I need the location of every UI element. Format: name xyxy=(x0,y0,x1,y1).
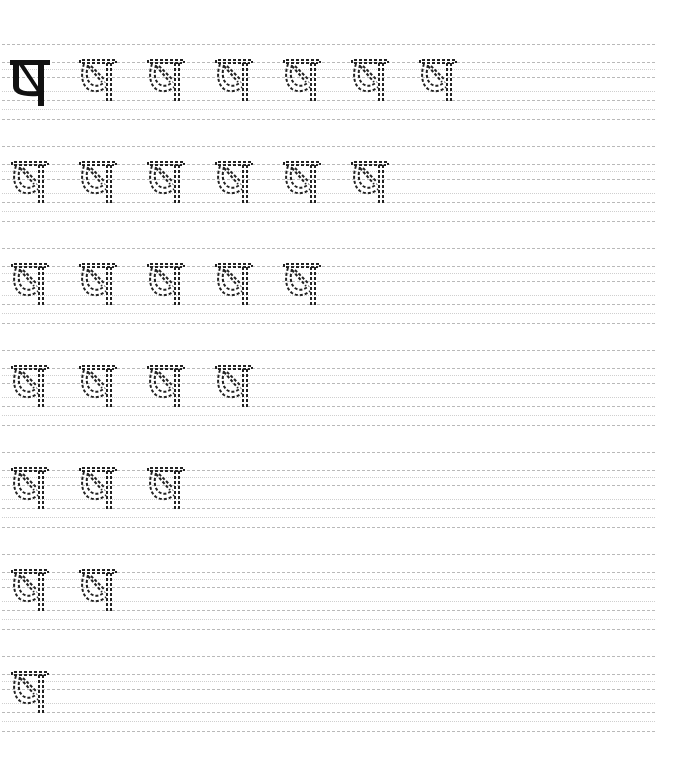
guide-line xyxy=(2,629,655,630)
guide-line xyxy=(2,703,655,704)
guide-line xyxy=(2,452,655,453)
guide-line xyxy=(2,712,655,713)
practice-row-5 xyxy=(2,452,655,542)
trace-letter xyxy=(78,160,118,206)
trace-letter xyxy=(10,568,50,614)
guide-line xyxy=(2,527,655,528)
guide-line xyxy=(2,721,655,722)
trace-letter xyxy=(350,58,390,104)
model-letter-text: ष xyxy=(10,60,50,106)
guide-line xyxy=(2,731,655,732)
trace-letter xyxy=(78,568,118,614)
trace-letter xyxy=(146,466,186,512)
trace-letter xyxy=(78,466,118,512)
trace-letter xyxy=(146,58,186,104)
practice-row-7 xyxy=(2,656,655,746)
guide-line xyxy=(2,323,655,324)
guide-line xyxy=(2,211,655,212)
trace-letter xyxy=(146,262,186,308)
trace-letter xyxy=(78,262,118,308)
guide-line xyxy=(2,619,655,620)
practice-row-6 xyxy=(2,554,655,644)
guide-line xyxy=(2,44,655,45)
guide-line xyxy=(2,350,655,351)
practice-row-1: ष xyxy=(2,44,655,134)
guide-line xyxy=(2,681,655,682)
guide-line xyxy=(2,146,655,147)
guide-line xyxy=(2,119,655,120)
trace-letter xyxy=(350,160,390,206)
guide-line xyxy=(2,674,655,675)
guide-line xyxy=(2,554,655,555)
trace-letter xyxy=(78,364,118,410)
trace-letter xyxy=(214,160,254,206)
trace-letter xyxy=(146,364,186,410)
trace-letter xyxy=(10,466,50,512)
guide-line xyxy=(2,313,655,314)
guide-line xyxy=(2,248,655,249)
trace-letter xyxy=(282,58,322,104)
trace-letter xyxy=(214,262,254,308)
handwriting-worksheet: ष xyxy=(0,0,690,767)
guide-line xyxy=(2,221,655,222)
guide-line xyxy=(2,415,655,416)
guide-line xyxy=(2,109,655,110)
trace-letter xyxy=(78,58,118,104)
trace-letter xyxy=(282,262,322,308)
guide-line xyxy=(2,517,655,518)
trace-letter xyxy=(282,160,322,206)
trace-letter xyxy=(10,364,50,410)
trace-letter xyxy=(10,670,50,716)
practice-row-3 xyxy=(2,248,655,338)
practice-row-4 xyxy=(2,350,655,440)
practice-row-2 xyxy=(2,146,655,236)
trace-letter xyxy=(10,262,50,308)
guide-line xyxy=(2,689,655,690)
trace-letter xyxy=(214,364,254,410)
trace-letter xyxy=(214,58,254,104)
trace-letter xyxy=(10,160,50,206)
guide-line xyxy=(2,425,655,426)
trace-letter xyxy=(146,160,186,206)
model-letter: ष xyxy=(10,60,50,106)
trace-letter xyxy=(418,58,458,104)
guide-line xyxy=(2,656,655,657)
